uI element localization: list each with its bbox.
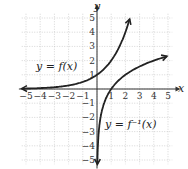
svg-text:2: 2 <box>89 56 95 66</box>
svg-text:5: 5 <box>165 91 171 101</box>
svg-text:3: 3 <box>89 41 95 51</box>
svg-text:−3: −3 <box>82 127 96 137</box>
svg-text:3: 3 <box>137 91 143 101</box>
svg-text:2: 2 <box>123 91 129 101</box>
function-graph: −5−4−3−2−11234554321−1−2−3−4−5 <box>0 0 188 169</box>
svg-text:−3: −3 <box>48 91 62 101</box>
svg-text:−1: −1 <box>82 98 95 108</box>
svg-text:4: 4 <box>89 27 95 37</box>
svg-text:4: 4 <box>151 91 157 101</box>
svg-text:−5: −5 <box>19 91 33 101</box>
f-label: y = f(x) <box>36 60 77 73</box>
svg-text:−2: −2 <box>82 112 95 122</box>
finv-label: y = f⁻¹(x) <box>105 118 157 131</box>
svg-text:5: 5 <box>89 13 95 23</box>
svg-text:−2: −2 <box>62 91 75 101</box>
svg-text:−4: −4 <box>82 141 96 151</box>
y-axis-label: y <box>94 0 100 13</box>
svg-text:−4: −4 <box>34 91 48 101</box>
svg-text:−5: −5 <box>82 155 96 165</box>
x-axis-label: x <box>178 82 184 95</box>
